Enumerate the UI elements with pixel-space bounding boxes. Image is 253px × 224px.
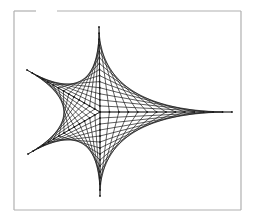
spoke-point bbox=[146, 111, 148, 113]
envelope-line bbox=[95, 33, 99, 109]
spoke-point bbox=[99, 153, 101, 155]
spoke-point bbox=[78, 99, 80, 101]
spoke-point bbox=[175, 111, 177, 113]
spoke-point bbox=[99, 93, 101, 95]
spoke-point bbox=[37, 75, 39, 77]
spoke-point bbox=[156, 111, 158, 113]
spoke-point bbox=[99, 195, 101, 197]
spoke-point bbox=[57, 87, 59, 89]
spoke-point bbox=[63, 132, 65, 134]
spoke-point bbox=[109, 111, 111, 113]
spoke-point bbox=[32, 150, 34, 152]
spoke-point bbox=[98, 32, 100, 34]
spoke-point bbox=[231, 111, 233, 113]
spoke-point bbox=[94, 108, 96, 110]
spoke-point bbox=[37, 147, 39, 149]
spoke-point bbox=[73, 96, 75, 98]
spoke-point bbox=[53, 138, 55, 140]
spoke-point bbox=[99, 189, 101, 191]
spoke-point bbox=[99, 69, 101, 71]
spoke-point bbox=[99, 147, 101, 149]
spoke-point bbox=[99, 117, 101, 119]
spoke-point bbox=[58, 135, 60, 137]
spoke-point bbox=[99, 63, 101, 65]
spoke-point bbox=[47, 81, 49, 83]
string-art-figure bbox=[0, 0, 253, 224]
spoke-point bbox=[98, 26, 100, 28]
spoke-point bbox=[99, 81, 101, 83]
spoke-point bbox=[68, 93, 70, 95]
spoke-point bbox=[98, 50, 100, 52]
spoke-point bbox=[99, 105, 101, 107]
spoke-point bbox=[165, 111, 167, 113]
spoke-point bbox=[99, 177, 101, 179]
spoke-point bbox=[99, 99, 101, 101]
spoke-point bbox=[212, 111, 214, 113]
spoke-point bbox=[127, 111, 129, 113]
spoke-point bbox=[42, 78, 44, 80]
spoke-point bbox=[99, 141, 101, 143]
envelope-line bbox=[33, 118, 100, 151]
spoke-point bbox=[99, 165, 101, 167]
spoke-point bbox=[193, 111, 195, 113]
spoke-point bbox=[137, 111, 139, 113]
spoke-point bbox=[99, 135, 101, 137]
spoke-point bbox=[26, 69, 28, 71]
envelope-line bbox=[100, 112, 166, 154]
envelope-line bbox=[90, 39, 100, 106]
spoke-point bbox=[27, 153, 29, 155]
spoke-point bbox=[48, 141, 50, 143]
spoke-point bbox=[118, 111, 120, 113]
spoke-point bbox=[79, 123, 81, 125]
spoke-point bbox=[184, 111, 186, 113]
spoke-point bbox=[99, 171, 101, 173]
spoke-point bbox=[98, 56, 100, 58]
spoke-point bbox=[98, 44, 100, 46]
spoke-point bbox=[89, 105, 91, 107]
spoke-point bbox=[99, 123, 101, 125]
spoke-point bbox=[89, 117, 91, 119]
spoke-point bbox=[222, 111, 224, 113]
spoke-point bbox=[63, 90, 65, 92]
spoke-point bbox=[99, 87, 101, 89]
spoke-point bbox=[83, 102, 85, 104]
spoke-point bbox=[31, 72, 33, 74]
spoke-point bbox=[84, 120, 86, 122]
spoke-point bbox=[73, 126, 75, 128]
spoke-point bbox=[94, 114, 96, 116]
spoke-point bbox=[52, 84, 54, 86]
spoke-point bbox=[99, 111, 101, 113]
spoke-point bbox=[43, 144, 45, 146]
envelope-lines bbox=[27, 27, 232, 196]
spoke-point bbox=[99, 129, 101, 131]
spoke-point bbox=[98, 38, 100, 40]
spoke-point bbox=[99, 183, 101, 185]
spoke-point bbox=[203, 111, 205, 113]
spoke-point bbox=[68, 129, 70, 131]
spoke-point bbox=[99, 75, 101, 77]
spoke-point bbox=[99, 159, 101, 161]
